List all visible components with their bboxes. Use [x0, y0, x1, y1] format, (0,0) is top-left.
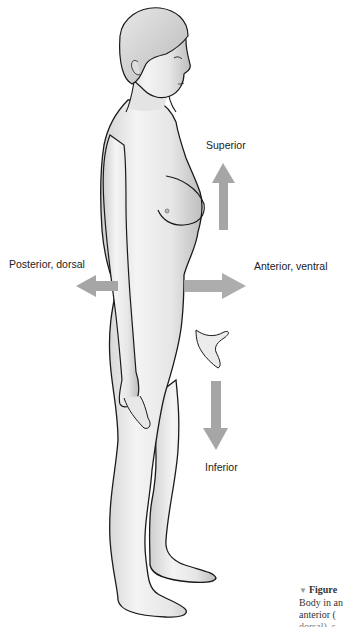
arrow-superior [212, 163, 235, 230]
arrow-anterior [184, 273, 246, 299]
label-posterior-dorsal: Posterior, dorsal [9, 258, 85, 270]
caption-marker-icon: ▼ [299, 586, 307, 595]
figure-caption: ▼Figure Body in an anterior ( dorsal), s [299, 584, 348, 627]
caption-line-3: dorsal), s [299, 621, 348, 627]
label-anterior-ventral: Anterior, ventral [254, 260, 328, 272]
caption-figure-label: Figure [309, 584, 337, 595]
label-inferior: Inferior [205, 461, 238, 473]
label-superior: Superior [206, 139, 246, 151]
arrow-inferior [203, 381, 228, 450]
caption-line-1: Body in an [299, 597, 348, 609]
front-hand [196, 330, 229, 368]
caption-line-2: anterior ( [299, 609, 348, 621]
